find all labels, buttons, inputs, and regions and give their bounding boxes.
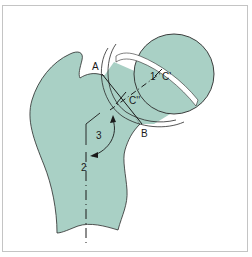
label-point-a: A (92, 61, 99, 72)
label-axis-2: 2 (81, 162, 87, 173)
label-angle-3: 3 (96, 130, 102, 141)
label-point-c-prime: C' (162, 71, 171, 82)
label-point-c-double-prime: C'' (129, 95, 140, 106)
femoral-head (134, 34, 214, 114)
label-point-b: B (141, 128, 148, 139)
femur-diagram: A B C' C'' 1 2 3 (0, 0, 252, 257)
label-axis-1: 1 (150, 71, 156, 82)
